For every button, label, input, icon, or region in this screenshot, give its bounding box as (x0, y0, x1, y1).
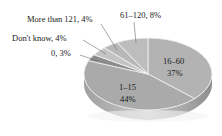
label-dont-know: Don't know, 4% (12, 33, 67, 43)
pie-slices (84, 38, 212, 110)
label-more-than-121: More than 121, 4% (27, 14, 93, 24)
label-0: 0, 3% (51, 48, 71, 58)
label-1-15-range: 1–15 (119, 82, 136, 92)
pie-chart: 61–120, 8% More than 121, 4% Don't know,… (0, 0, 222, 136)
label-16-60-range: 16–60 (163, 56, 184, 66)
label-16-60-pct: 37% (167, 68, 183, 78)
label-61-120: 61–120, 8% (120, 10, 161, 20)
label-1-15-pct: 44% (120, 94, 136, 104)
